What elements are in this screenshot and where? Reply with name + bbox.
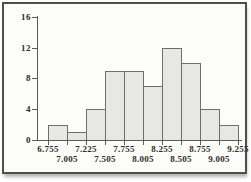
x-axis-bin-edge-label: 8.005 <box>127 155 159 164</box>
x-axis-tick <box>86 141 87 145</box>
x-axis-tick <box>238 141 239 145</box>
y-axis-tick-label: 8 <box>5 74 31 83</box>
x-axis-tick <box>219 141 220 145</box>
histogram-bar <box>219 125 239 141</box>
histogram-bar <box>48 125 68 141</box>
histogram-bar <box>162 48 182 141</box>
x-axis-tick <box>124 141 125 145</box>
histogram-bar <box>86 109 106 141</box>
y-axis-tick <box>32 140 37 141</box>
x-axis-bin-edge-label: 8.255 <box>146 145 178 154</box>
x-axis-bin-edge-label: 7.225 <box>70 145 102 154</box>
y-axis-tick-label: 4 <box>5 105 31 114</box>
x-axis-tick <box>105 141 106 145</box>
y-axis-tick-label: 0 <box>5 136 31 145</box>
histogram-chart: 04812166.7557.0057.2257.5057.7558.0058.2… <box>0 0 251 182</box>
histogram-bar <box>181 63 201 141</box>
x-axis-bin-edge-label: 7.755 <box>108 145 140 154</box>
x-axis-bin-edge-label: 7.005 <box>51 155 83 164</box>
y-axis-tick-label: 16 <box>5 13 31 22</box>
x-axis-tick <box>48 141 49 145</box>
x-axis-tick <box>143 141 144 145</box>
y-axis-tick <box>32 78 37 79</box>
x-axis-tick <box>162 141 163 145</box>
x-axis-bin-edge-label: 7.505 <box>89 155 121 164</box>
x-axis-bin-edge-label: 9.255 <box>222 145 251 154</box>
x-axis-tick <box>200 141 201 145</box>
y-axis <box>37 16 38 141</box>
x-axis-tick <box>181 141 182 145</box>
histogram-bar <box>105 71 125 141</box>
x-axis-tick <box>67 141 68 145</box>
histogram-bar <box>143 86 163 141</box>
histogram-bar <box>124 71 144 141</box>
x-axis-bin-edge-label: 9.005 <box>203 155 235 164</box>
histogram-bar <box>200 109 220 141</box>
y-axis-tick <box>32 48 37 49</box>
y-axis-tick-label: 12 <box>5 44 31 53</box>
y-axis-tick <box>32 17 37 18</box>
x-axis-bin-edge-label: 8.505 <box>165 155 197 164</box>
y-axis-tick <box>32 109 37 110</box>
x-axis-bin-edge-label: 6.755 <box>32 145 64 154</box>
x-axis-bin-edge-label: 8.755 <box>184 145 216 154</box>
